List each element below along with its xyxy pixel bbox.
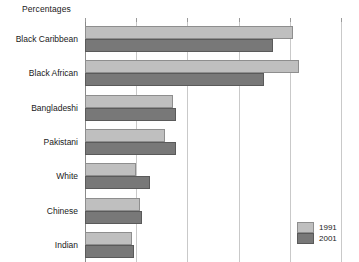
bar-1991[interactable] [85, 60, 299, 73]
bar-2001[interactable] [85, 142, 176, 155]
chart-legend: 1991 2001 [297, 222, 355, 256]
bar-group [85, 129, 341, 155]
chart-title: Percentages [22, 4, 71, 14]
bar-2001[interactable] [85, 108, 176, 121]
axis-tick [341, 18, 342, 22]
bar-group [85, 163, 341, 189]
bar-2001[interactable] [85, 176, 150, 189]
bar-group [85, 198, 341, 224]
bar-group [85, 60, 341, 86]
bar-2001[interactable] [85, 73, 264, 86]
legend-label: 1991 [319, 222, 337, 233]
bar-chart: Percentages Black Caribbean Black Africa… [0, 0, 359, 262]
category-label: White [56, 171, 78, 181]
bar-1991[interactable] [85, 198, 140, 211]
bar-1991[interactable] [85, 129, 165, 142]
bar-group [85, 95, 341, 121]
category-label: Pakistani [44, 137, 79, 147]
dark-gray-swatch-icon [297, 233, 314, 244]
category-label: Black African [29, 68, 78, 78]
bar-1991[interactable] [85, 232, 132, 245]
bar-2001[interactable] [85, 39, 273, 52]
light-gray-swatch-icon [297, 222, 314, 233]
bar-1991[interactable] [85, 163, 136, 176]
bar-1991[interactable] [85, 95, 173, 108]
category-label: Black Caribbean [16, 34, 78, 44]
category-label: Indian [55, 240, 78, 250]
bar-2001[interactable] [85, 245, 134, 258]
category-label: Chinese [47, 206, 78, 216]
bar-1991[interactable] [85, 26, 293, 39]
category-label: Bangladeshi [31, 103, 78, 113]
legend-label: 2001 [319, 233, 337, 244]
bar-group [85, 26, 341, 52]
bar-2001[interactable] [85, 211, 142, 224]
category-axis-labels: Black Caribbean Black African Bangladesh… [0, 22, 82, 262]
